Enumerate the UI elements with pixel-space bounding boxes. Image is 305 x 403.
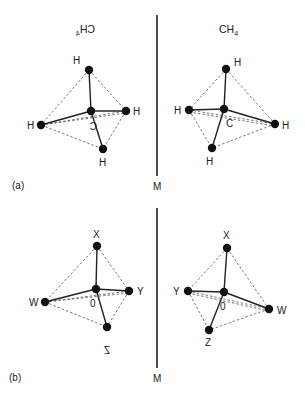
atom-center: [92, 285, 100, 293]
panel-label-b: (b): [9, 372, 21, 383]
atom-x: [93, 242, 101, 250]
panel-label-a: (a): [12, 180, 24, 191]
atom-h-bottom: [99, 145, 107, 153]
label-h-right: H: [282, 120, 289, 131]
mirror-label-b: M: [153, 373, 161, 384]
atom-h-left: [37, 121, 45, 129]
atom-h-bottom: [208, 144, 216, 152]
label-w: W: [277, 305, 287, 316]
label-h-bottom: H: [206, 156, 213, 167]
molecule-left-a: H H H H C: [27, 55, 140, 168]
label-y: Y: [137, 286, 144, 297]
mirror-label-a: M: [153, 181, 161, 192]
atom-h-top: [85, 66, 93, 74]
molecule-right-a: H H H H C: [174, 57, 289, 167]
atom-w: [41, 298, 49, 306]
label-c: C: [226, 118, 233, 129]
atom-x: [223, 244, 231, 252]
atom-y: [125, 287, 133, 295]
atom-h-right: [122, 107, 130, 115]
svg-text:CH4: CH4: [76, 23, 95, 37]
label-h-bottom: H: [99, 157, 106, 168]
formula-main: CH: [219, 23, 234, 35]
atom-h-left: [185, 106, 193, 114]
atom-c: [220, 105, 228, 113]
label-z-mirrored: Z: [104, 344, 110, 355]
molecule-left-b: X Y W 0 Z: [29, 229, 144, 355]
formula-main: CH: [80, 23, 95, 35]
formula-subscript: 4: [234, 30, 238, 37]
formula-subscript: 4: [76, 30, 80, 37]
formula-right: CH4: [219, 23, 238, 37]
atom-h-right: [271, 120, 279, 128]
label-z: Z: [205, 337, 211, 348]
label-h-right: H: [133, 106, 140, 117]
panel-a: M (a) CH4 CH4: [12, 15, 289, 192]
label-h-left: H: [174, 105, 181, 116]
formula-left-mirrored: CH4: [76, 23, 95, 37]
atom-c: [87, 107, 95, 115]
label-x: X: [223, 230, 230, 241]
atom-z: [205, 326, 213, 334]
label-center: 0: [90, 298, 96, 309]
label-x: X: [93, 229, 100, 240]
label-h-left: H: [27, 120, 34, 131]
chirality-mirror-diagram: M (a) CH4 CH4: [0, 0, 305, 403]
atom-h-top: [222, 65, 230, 73]
atom-z: [103, 323, 111, 331]
label-w: W: [29, 297, 39, 308]
svg-text:CH4: CH4: [219, 23, 238, 37]
atom-y: [184, 287, 192, 295]
label-c-mirrored: C: [90, 121, 97, 132]
panel-b: M (b) X Y W 0 Z: [9, 208, 287, 384]
atom-w: [265, 305, 273, 313]
label-h-top: H: [73, 55, 80, 66]
atom-center: [220, 288, 228, 296]
molecule-right-b: X Y W 0 Z: [173, 230, 287, 348]
label-y: Y: [173, 286, 180, 297]
label-center: 0: [220, 301, 226, 312]
label-h-top: H: [234, 57, 241, 68]
